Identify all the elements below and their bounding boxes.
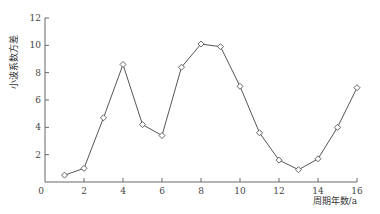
data-point-marker (218, 44, 224, 50)
y-tick-label: 10 (30, 40, 42, 50)
x-tick-label: 14 (312, 186, 324, 196)
x-axis-title: 周期年数/a (313, 195, 358, 206)
plot-area (62, 41, 361, 178)
x-tick-label: 8 (198, 186, 204, 196)
data-point-marker (81, 165, 87, 171)
origin-label: 0 (38, 186, 44, 196)
line-chart: 024681012141624681012 小波系数方差 周期年数/a (0, 0, 380, 214)
y-tick-label: 2 (35, 150, 41, 160)
data-point-marker (335, 124, 341, 130)
x-tick-label: 10 (234, 186, 246, 196)
data-point-marker (354, 85, 360, 91)
data-point-marker (62, 172, 68, 178)
x-tick-label: 12 (273, 186, 284, 196)
data-line (65, 44, 358, 175)
y-tick-label: 6 (35, 95, 41, 105)
x-tick-label: 2 (81, 186, 87, 196)
axes: 024681012141624681012 (30, 13, 363, 196)
data-point-marker (140, 122, 146, 128)
data-point-marker (237, 83, 243, 89)
data-point-marker (315, 156, 321, 162)
data-point-marker (296, 167, 302, 173)
x-tick-label: 16 (351, 186, 363, 196)
y-axis-title: 小波系数方差 (8, 35, 19, 89)
y-tick-label: 4 (35, 122, 41, 132)
x-tick-label: 4 (120, 186, 126, 196)
data-point-marker (159, 133, 165, 139)
data-point-marker (101, 115, 107, 121)
data-point-marker (120, 61, 126, 67)
data-point-marker (276, 157, 282, 163)
y-tick-label: 12 (30, 13, 41, 23)
x-tick-label: 6 (159, 186, 165, 196)
y-tick-label: 8 (35, 68, 41, 78)
